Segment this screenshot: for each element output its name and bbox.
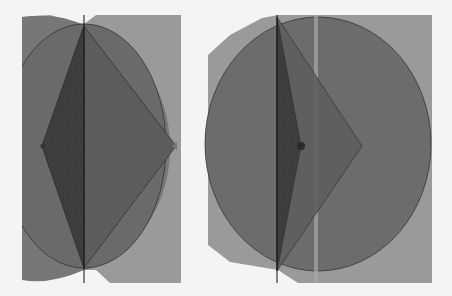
geometry-figure: [0, 0, 452, 296]
left-vertex-dot-left: [41, 144, 46, 149]
right-vertex-dot: [297, 142, 305, 150]
right-panel: [205, 15, 432, 283]
left-panel: [2, 15, 181, 283]
